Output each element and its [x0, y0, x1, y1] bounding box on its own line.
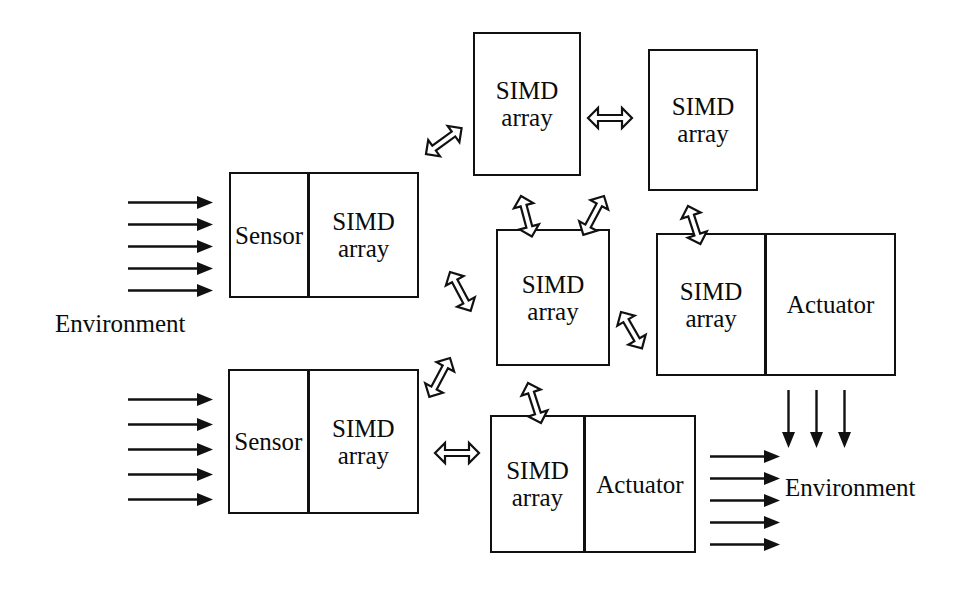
node-sensor-top-left[interactable]: SensorSIMDarray	[229, 172, 419, 298]
node-simd-actuator-right[interactable]: SIMDarrayActuator	[656, 233, 896, 376]
simd-top-right-simd-array-cell: SIMDarray	[650, 51, 756, 189]
environment-input-arrows-bottom-arrow	[128, 468, 213, 481]
sensor-bottom-left-sensor-cell-text: Sensor	[234, 428, 302, 455]
simd-actuator-right-simd-array-cell: SIMDarray	[658, 235, 764, 374]
simd-center-simd-array-cell-line: array	[522, 298, 585, 325]
environment-input-arrows-bottom-arrow	[128, 443, 213, 456]
sensor-top-left-sensor-cell: Sensor	[231, 174, 307, 296]
environment-output-arrows-bottom-arrow	[710, 472, 780, 485]
environment-output-arrows-bottom-arrow	[710, 450, 780, 463]
environment-input-arrows-bottom-arrow	[128, 418, 213, 431]
sensor-bottom-left-simd-array-cell-line: array	[332, 442, 395, 469]
environment-output-arrows-bottom-arrow	[710, 494, 780, 507]
simd-actuator-right-actuator-cell: Actuator	[764, 235, 894, 374]
simd-actuator-bottom-actuator-cell: Actuator	[583, 417, 694, 551]
simd-actuator-right-actuator-cell-line: Actuator	[787, 291, 874, 318]
simd-actuator-bottom-actuator-cell-line: Actuator	[596, 471, 683, 498]
sensor-top-left-simd-array-cell-line: array	[332, 235, 395, 262]
environment-output-arrows-right-arrow	[838, 390, 851, 448]
environment-input-arrows-bottom-arrow	[128, 393, 213, 406]
sensor-bottom-left-simd-array-cell: SIMDarray	[307, 371, 417, 512]
node-simd-actuator-bottom[interactable]: SIMDarrayActuator	[490, 415, 696, 553]
environment-input-arrows-top-arrow	[128, 240, 213, 253]
environment-input-arrows-top-arrow	[128, 262, 213, 275]
environment-input-arrows-top-arrow	[128, 196, 213, 209]
node-simd-center[interactable]: SIMDarray	[496, 229, 610, 366]
diagram-canvas: SIMDarraySIMDarraySensorSIMDarraySIMDarr…	[0, 0, 975, 592]
simd-actuator-bottom-simd-array-cell-line: SIMD	[506, 457, 569, 484]
simd-top-right-simd-array-cell-line: SIMD	[672, 93, 735, 120]
sensor-top-left-sensor-cell-line: Sensor	[235, 222, 303, 249]
environment-label-left: Environment	[55, 310, 186, 338]
environment-input-arrows-top-arrow	[128, 218, 213, 231]
simd-actuator-right-simd-array-cell-line: array	[680, 305, 743, 332]
double-arrow-diagonal-link-center-sensorbottom	[421, 353, 459, 401]
environment-label-right: Environment	[785, 474, 916, 502]
simd-center-simd-array-cell: SIMDarray	[498, 231, 608, 364]
sensor-bottom-left-simd-array-cell-text: SIMDarray	[332, 415, 395, 469]
environment-input-arrows-bottom-arrow	[128, 493, 213, 506]
simd-top-left-simd-array-cell-line: array	[496, 104, 559, 131]
sensor-top-left-simd-array-cell: SIMDarray	[307, 174, 417, 296]
sensor-top-left-sensor-cell-text: Sensor	[235, 222, 303, 249]
node-sensor-bottom-left[interactable]: SensorSIMDarray	[228, 369, 419, 514]
simd-actuator-right-simd-array-cell-text: SIMDarray	[680, 278, 743, 332]
sensor-top-left-simd-array-cell-line: SIMD	[332, 208, 395, 235]
node-simd-top-left[interactable]: SIMDarray	[473, 32, 581, 176]
double-arrow-diagonal-link-center-rightnode	[612, 307, 650, 353]
double-arrow-horizontal-link-sensorbottom-bottomnode	[435, 443, 479, 463]
simd-center-simd-array-cell-line: SIMD	[522, 271, 585, 298]
simd-top-left-simd-array-cell-text: SIMDarray	[496, 77, 559, 131]
environment-output-arrows-right-arrow	[782, 390, 795, 448]
simd-actuator-bottom-simd-array-cell-text: SIMDarray	[506, 457, 569, 511]
simd-actuator-right-actuator-cell-text: Actuator	[787, 291, 874, 318]
environment-output-arrows-right-arrow	[810, 390, 823, 448]
simd-center-simd-array-cell-text: SIMDarray	[522, 271, 585, 325]
sensor-bottom-left-sensor-cell: Sensor	[230, 371, 307, 512]
simd-actuator-bottom-simd-array-cell-line: array	[506, 484, 569, 511]
simd-top-right-simd-array-cell-line: array	[672, 120, 735, 147]
sensor-bottom-left-simd-array-cell-line: SIMD	[332, 415, 395, 442]
double-arrow-horizontal-link-topleft-topright	[588, 108, 632, 128]
simd-top-left-simd-array-cell: SIMDarray	[475, 34, 579, 174]
simd-actuator-bottom-actuator-cell-text: Actuator	[596, 471, 683, 498]
double-arrow-diagonal-link-sensor-center	[441, 267, 479, 315]
node-simd-top-right[interactable]: SIMDarray	[648, 49, 758, 191]
simd-actuator-bottom-simd-array-cell: SIMDarray	[492, 417, 583, 551]
sensor-top-left-simd-array-cell-text: SIMDarray	[332, 208, 395, 262]
environment-output-arrows-bottom-arrow	[710, 516, 780, 529]
simd-top-left-simd-array-cell-line: SIMD	[496, 77, 559, 104]
sensor-bottom-left-sensor-cell-line: Sensor	[234, 428, 302, 455]
environment-input-arrows-top-arrow	[128, 284, 213, 297]
simd-top-right-simd-array-cell-text: SIMDarray	[672, 93, 735, 147]
double-arrow-diagonal-link-sensor-topleft	[420, 120, 467, 162]
environment-output-arrows-bottom-arrow	[710, 538, 780, 551]
simd-actuator-right-simd-array-cell-line: SIMD	[680, 278, 743, 305]
